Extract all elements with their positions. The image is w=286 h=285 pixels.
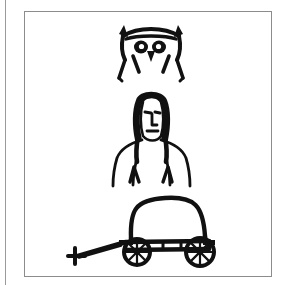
person-drawing [103, 86, 199, 190]
cut-off-caption-sliver: ·· ··· [0, 0, 286, 9]
wagon-rear-wheel [186, 238, 214, 266]
owl-face-drawing [111, 24, 191, 86]
caption-sliver-text: ·· ··· [131, 0, 155, 4]
scanned-page: ·· ··· [0, 0, 286, 285]
wagon-front-wheel [124, 239, 150, 265]
page-margin-rule [5, 0, 6, 285]
figure-frame [24, 11, 272, 277]
covered-wagon-drawing [63, 192, 239, 268]
